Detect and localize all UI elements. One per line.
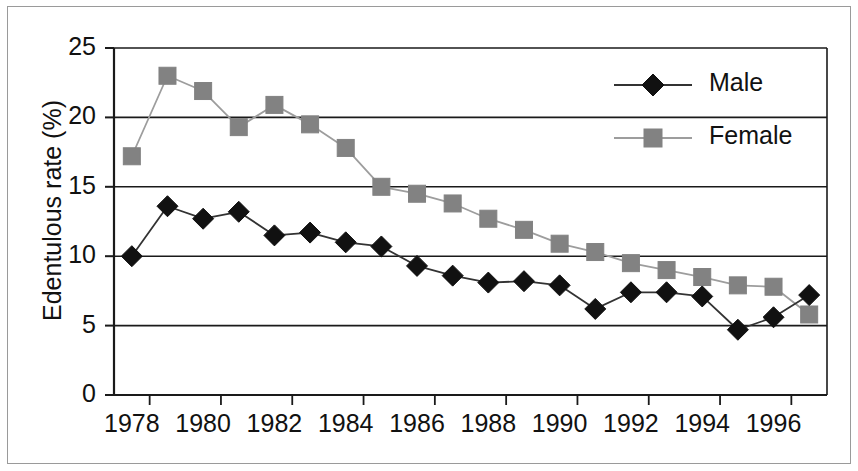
data-point-female-1986 — [409, 185, 426, 202]
data-point-male-1997 — [799, 285, 820, 306]
chart-figure: Edentulous rate (%) 0510152025 197819801… — [0, 0, 858, 471]
data-point-male-1979 — [157, 196, 178, 217]
data-point-male-1980 — [193, 208, 214, 229]
data-point-female-1984 — [337, 139, 354, 156]
data-point-male-1992 — [620, 282, 641, 303]
data-point-male-1989 — [513, 271, 534, 292]
x-tick-label-1978: 1978 — [92, 409, 172, 438]
y-tick-label-20: 20 — [36, 101, 96, 130]
data-point-female-1978 — [123, 148, 140, 165]
data-point-female-1989 — [515, 221, 532, 238]
x-tick-label-1988: 1988 — [448, 409, 528, 438]
data-point-male-1986 — [407, 255, 428, 276]
data-point-female-1993 — [658, 262, 675, 279]
data-point-female-1991 — [587, 244, 604, 261]
legend-markers — [614, 74, 692, 147]
data-point-male-1990 — [549, 275, 570, 296]
gridlines-group — [114, 48, 827, 395]
data-point-female-1987 — [444, 195, 461, 212]
data-point-male-1983 — [300, 222, 321, 243]
data-point-female-1988 — [480, 210, 497, 227]
data-point-female-1981 — [230, 119, 247, 136]
legend-marker-male — [642, 74, 664, 96]
legend-label-female: Female — [709, 121, 792, 150]
data-point-female-1982 — [266, 96, 283, 113]
data-point-male-1981 — [228, 201, 249, 222]
x-tick-label-1990: 1990 — [520, 409, 600, 438]
x-tick-label-1986: 1986 — [377, 409, 457, 438]
x-tick-marks — [150, 395, 792, 405]
y-tick-label-10: 10 — [36, 240, 96, 269]
data-point-male-1985 — [371, 236, 392, 257]
series-male — [121, 196, 819, 341]
data-point-female-1983 — [302, 116, 319, 133]
x-tick-label-1992: 1992 — [591, 409, 671, 438]
series-female — [123, 67, 817, 323]
data-point-female-1995 — [729, 277, 746, 294]
y-tick-label-5: 5 — [36, 310, 96, 339]
data-point-male-1987 — [442, 265, 463, 286]
data-point-male-1982 — [264, 225, 285, 246]
legend-marker-female — [644, 129, 662, 147]
y-tick-label-15: 15 — [36, 171, 96, 200]
data-point-male-1991 — [585, 298, 606, 319]
x-tick-label-1984: 1984 — [306, 409, 386, 438]
legend-label-male: Male — [709, 68, 763, 97]
data-point-male-1996 — [763, 307, 784, 328]
x-tick-label-1994: 1994 — [662, 409, 742, 438]
data-point-female-1997 — [801, 306, 818, 323]
y-tick-label-25: 25 — [36, 32, 96, 61]
y-tick-marks — [105, 48, 114, 395]
data-point-female-1980 — [195, 83, 212, 100]
x-tick-label-1996: 1996 — [734, 409, 814, 438]
data-point-male-1984 — [335, 232, 356, 253]
data-point-female-1992 — [622, 255, 639, 272]
x-tick-label-1980: 1980 — [163, 409, 243, 438]
y-tick-label-0: 0 — [36, 379, 96, 408]
x-tick-label-1982: 1982 — [234, 409, 314, 438]
data-point-female-1996 — [765, 278, 782, 295]
data-point-female-1990 — [551, 235, 568, 252]
data-point-male-1988 — [478, 272, 499, 293]
data-point-female-1994 — [694, 269, 711, 286]
data-point-male-1978 — [121, 246, 142, 267]
data-point-female-1985 — [373, 178, 390, 195]
series-line-male — [132, 206, 809, 330]
axes-group — [114, 48, 827, 395]
data-point-male-1993 — [656, 282, 677, 303]
data-point-female-1979 — [159, 67, 176, 84]
